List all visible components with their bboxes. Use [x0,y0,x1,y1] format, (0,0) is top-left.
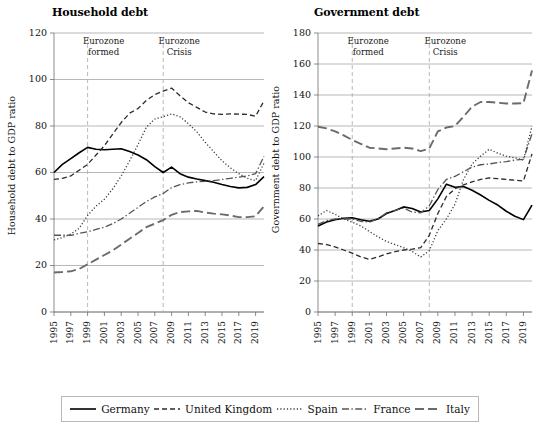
annotation-eurozone-formed: Eurozoneformed [83,36,124,57]
legend-swatch-germany [70,404,96,414]
x-tick-label: 2011 [183,321,193,344]
legend-item-france: France [342,403,410,415]
series-line-italy [54,206,264,272]
plot-area-household: 0204060801001201995199719992001200320052… [20,24,268,382]
legend-label-france: France [373,403,410,415]
y-tick-label: 40 [299,244,311,255]
x-tick-label: 2001 [99,321,109,344]
x-tick-label: 1995 [313,321,323,344]
annotation-line2: Crisis [433,47,458,57]
series-line-spain [318,126,532,257]
x-tick-label: 2015 [484,321,494,344]
series-line-germany [318,184,532,226]
x-tick-label: 1997 [65,321,75,344]
legend-label-united-kingdom: United Kingdom [185,403,272,415]
y-tick-label: 80 [299,182,311,193]
legend-item-spain: Spain [277,403,338,415]
y-tick-label: 160 [293,58,311,69]
y-tick-label: 120 [29,27,47,38]
panel-household-debt: Household debt Household debt to GDP rat… [0,0,268,392]
legend-label-italy: Italy [446,403,470,415]
y-tick-label: 180 [293,27,311,38]
x-tick-label: 2011 [449,321,459,344]
y-tick-label: 20 [35,259,47,270]
x-tick-label: 2019 [250,321,260,344]
x-tick-label: 2009 [166,321,176,344]
x-tick-label: 1999 [347,321,357,344]
panel-title-government: Government debt [314,6,419,19]
series-line-france [54,156,264,235]
legend-swatch-italy [415,404,441,414]
y-tick-label: 20 [299,275,311,286]
y-tick-label: 0 [41,306,47,317]
x-tick-label: 2003 [381,321,391,344]
legend-label-germany: Germany [101,403,150,415]
annotation-eurozone-formed: Eurozoneformed [348,36,389,57]
plot-area-government: 0204060801001201401601801995199719992001… [284,24,536,382]
y-tick-label: 60 [299,213,311,224]
legend-swatch-france [342,404,368,414]
x-tick-label: 2015 [217,321,227,344]
annotation-eurozone-crisis: EurozoneCrisis [425,36,466,57]
y-tick-label: 0 [305,306,311,317]
x-tick-label: 2005 [133,321,143,344]
series-line-united-kingdom [54,88,264,179]
y-tick-label: 40 [35,213,47,224]
y-tick-label: 80 [35,120,47,131]
legend-item-italy: Italy [415,403,470,415]
annotation-line1: Eurozone [158,36,199,46]
x-tick-label: 2009 [432,321,442,344]
legend-item-germany: Germany [70,403,150,415]
x-tick-label: 1999 [82,321,92,344]
x-tick-label: 1995 [49,321,59,344]
panel-title-household: Household debt [52,6,148,19]
y-tick-label: 100 [293,151,311,162]
x-tick-label: 2017 [501,321,511,344]
y-tick-label: 120 [293,120,311,131]
series-line-germany [54,147,264,187]
panel-government-debt: Government debt Government debt to GDP r… [266,0,541,392]
annotation-line2: Crisis [167,47,192,57]
annotation-line1: Eurozone [425,36,466,46]
y-tick-label: 140 [293,89,311,100]
annotation-line2: formed [88,47,120,57]
legend-swatch-united-kingdom [154,404,180,414]
annotation-line1: Eurozone [348,36,389,46]
annotation-line2: formed [353,47,385,57]
series-line-italy [318,71,532,152]
y-axis-label-household: Household debt to GDP ratio [6,96,17,235]
x-tick-label: 2013 [200,321,210,344]
chart-legend: GermanyUnited KingdomSpainFranceItaly [61,396,479,422]
x-tick-label: 2001 [364,321,374,344]
x-tick-label: 2017 [233,321,243,344]
x-tick-label: 1997 [330,321,340,344]
debt-charts-figure: Household debt Household debt to GDP rat… [0,0,541,431]
y-tick-label: 100 [29,73,47,84]
x-tick-label: 2013 [467,321,477,344]
x-tick-label: 2003 [116,321,126,344]
legend-item-united-kingdom: United Kingdom [154,403,272,415]
x-tick-label: 2019 [518,321,528,344]
legend-label-spain: Spain [308,403,338,415]
y-tick-label: 60 [35,166,47,177]
legend-swatch-spain [277,404,303,414]
y-axis-label-government: Government debt to GDP ratio [270,86,281,233]
x-tick-label: 2007 [149,321,159,344]
annotation-eurozone-crisis: EurozoneCrisis [158,36,199,57]
annotation-line1: Eurozone [83,36,124,46]
x-tick-label: 2005 [398,321,408,344]
x-tick-label: 2007 [415,321,425,344]
